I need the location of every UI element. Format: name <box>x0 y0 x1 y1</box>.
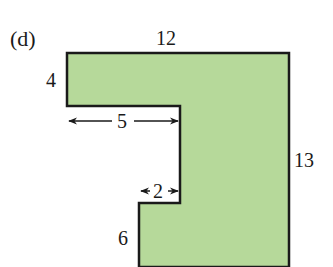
shaded-polygon <box>67 53 289 267</box>
figure-label: (d) <box>10 28 36 50</box>
dimension-notch-width: 5 <box>117 111 127 131</box>
dimension-bottom-left: 6 <box>118 228 128 248</box>
dimension-left-top: 4 <box>46 70 56 90</box>
dimension-step-width: 2 <box>153 181 163 201</box>
dimension-right: 13 <box>294 150 314 170</box>
l-shape-figure: (d) 12 4 5 13 2 6 <box>0 0 333 267</box>
dimension-top: 12 <box>156 28 176 48</box>
